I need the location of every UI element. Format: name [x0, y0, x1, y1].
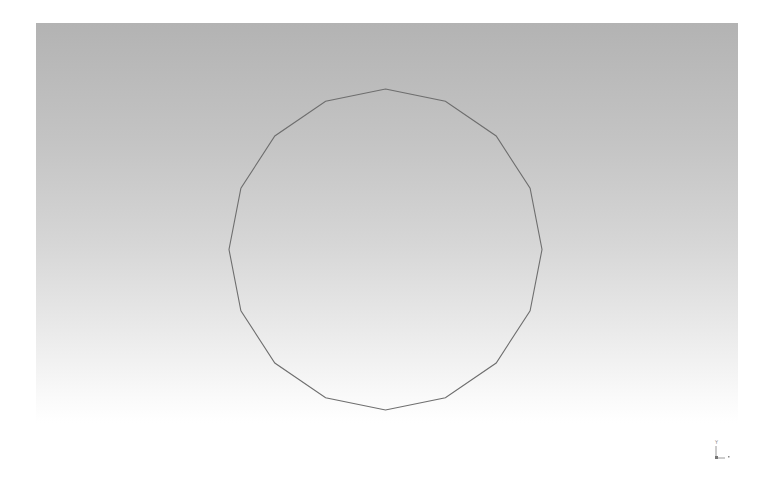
axis-triad-icon: Y — [712, 443, 732, 463]
drawing-canvas — [0, 0, 775, 480]
axis-lines-icon — [712, 443, 732, 463]
y-axis-label: Y — [715, 440, 718, 445]
sixteen-sided-polygon[interactable] — [229, 89, 542, 410]
